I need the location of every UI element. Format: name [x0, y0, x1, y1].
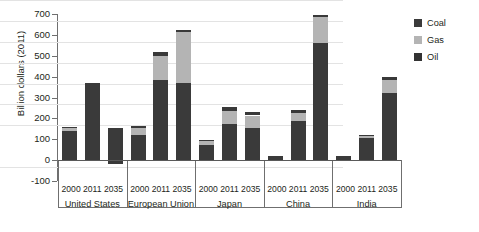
- bar: [382, 0, 397, 232]
- bar: [176, 0, 191, 232]
- bar-segment-oil: [85, 83, 100, 160]
- y-axis-tick-label: 400: [14, 72, 50, 82]
- bar: [199, 0, 214, 232]
- x-axis-year-labels: 2000 2011 2035: [264, 184, 333, 194]
- bar-segment-oil: [222, 124, 237, 161]
- x-axis-year-labels: 2000 2011 2035: [195, 184, 264, 194]
- legend-swatch-coal-icon: [414, 19, 422, 27]
- bar-segment-coal: [153, 52, 168, 56]
- bar-segment-gas: [359, 135, 374, 138]
- zero-line: [58, 160, 401, 161]
- y-axis-tick: [52, 181, 57, 182]
- bar-segment-coal: [176, 30, 191, 32]
- bar-segment-coal: [62, 127, 77, 128]
- chart-container: Billion dollars (2011) 70060050040030020…: [0, 0, 479, 232]
- bar-segment-oil: [153, 80, 168, 160]
- y-axis-tick-label: 500: [14, 51, 50, 61]
- x-axis-group-label: China: [264, 199, 333, 209]
- y-axis-tick-label: 600: [14, 30, 50, 40]
- bar-segment-oil: [199, 145, 214, 160]
- bar-segment-gas: [222, 111, 237, 124]
- y-axis-tick-label: 100: [14, 134, 50, 144]
- bar-segment-oil: [313, 43, 328, 160]
- bar-segment-gas: [382, 80, 397, 94]
- bar-segment-coal: [131, 126, 146, 127]
- legend-item-coal[interactable]: Coal: [414, 14, 446, 31]
- y-axis-tick-label: -100: [14, 176, 50, 186]
- bar: [291, 0, 306, 232]
- bar: [62, 0, 77, 232]
- bar: [313, 0, 328, 232]
- bar-segment-gas: [313, 17, 328, 43]
- bar-segment-oil: [359, 138, 374, 160]
- legend-swatch-gas-icon: [414, 36, 422, 44]
- bar: [336, 0, 351, 232]
- x-axis-year-labels: 2000 2011 2035: [127, 184, 196, 194]
- legend-item-gas[interactable]: Gas: [414, 31, 446, 48]
- legend-item-oil[interactable]: Oil: [414, 48, 446, 65]
- bar: [245, 0, 260, 232]
- bar-segment-gas: [199, 141, 214, 145]
- chart-legend: CoalGasOil: [414, 14, 446, 65]
- bar-segment-oil: [291, 121, 306, 161]
- x-axis-year-labels: 2000 2011 2035: [58, 184, 127, 194]
- bar-segment-oil: [131, 135, 146, 160]
- y-axis-tick-label: 700: [14, 9, 50, 19]
- bar-segment-oil: [108, 128, 123, 160]
- bar-segment-oil: [382, 93, 397, 160]
- bar-segment-coal: [222, 107, 237, 111]
- bar-segment-coal: [313, 15, 328, 17]
- bar-segment-coal: [291, 110, 306, 113]
- bar: [359, 0, 374, 232]
- bar-segment-coal: [382, 77, 397, 80]
- x-axis-group-label: United States: [58, 199, 127, 209]
- bar: [108, 0, 123, 232]
- bar-segment-coal: [359, 135, 374, 136]
- bar-segment-gas: [62, 128, 77, 131]
- label-box-right-border: [401, 160, 402, 208]
- bar-segment-gas: [131, 128, 146, 135]
- bar-segment-coal: [199, 140, 214, 141]
- bar: [268, 0, 283, 232]
- y-axis-tick-label: 0: [14, 155, 50, 165]
- bar: [85, 0, 100, 232]
- x-axis-group-label: India: [332, 199, 401, 209]
- bar-segment-oil: [62, 131, 77, 160]
- bar-segment-oil: [176, 83, 191, 160]
- x-axis-year-labels: 2000 2011 2035: [332, 184, 401, 194]
- legend-swatch-oil-icon: [414, 53, 422, 61]
- bar-segment-gas: [176, 32, 191, 83]
- bar-segment-coal: [245, 112, 260, 115]
- legend-label: Oil: [427, 52, 438, 62]
- bar: [153, 0, 168, 232]
- y-axis-line: [57, 14, 58, 181]
- bar-segment-gas: [245, 116, 260, 129]
- bar-segment-gas: [153, 56, 168, 80]
- legend-label: Coal: [427, 18, 446, 28]
- bar-segment-gas: [291, 113, 306, 121]
- bar: [131, 0, 146, 232]
- x-axis-group-label: Japan: [195, 199, 264, 209]
- bar-segment-oil: [245, 128, 260, 160]
- x-axis-group-label: European Union: [127, 199, 196, 209]
- legend-label: Gas: [427, 35, 444, 45]
- y-axis-tick-label: 300: [14, 93, 50, 103]
- bar: [222, 0, 237, 232]
- y-axis-tick-label: 200: [14, 113, 50, 123]
